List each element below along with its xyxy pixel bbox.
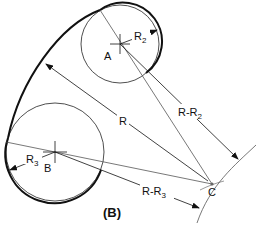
tangent-arc-construction-diagram: R2 A R3 B R R-R2 R-R3 C (B) bbox=[0, 0, 257, 227]
label-b: B bbox=[44, 162, 51, 174]
label-c: C bbox=[208, 186, 216, 198]
dimension-r-r2 bbox=[120, 44, 238, 159]
tangent-arc-r bbox=[8, 10, 100, 138]
circle-a-tangent-part bbox=[100, 2, 162, 73]
label-a: A bbox=[104, 50, 112, 62]
line-a-c bbox=[100, 10, 212, 184]
dimension-r-r3 bbox=[55, 152, 199, 208]
label-r: R bbox=[119, 115, 127, 127]
construction-arc-c bbox=[197, 145, 256, 223]
figure-caption: (B) bbox=[103, 205, 121, 220]
center-mark-b bbox=[43, 141, 67, 163]
circle-b-tangent-part bbox=[5, 138, 101, 203]
